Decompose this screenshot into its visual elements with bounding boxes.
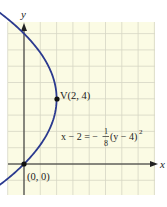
y-axis-label: y bbox=[20, 8, 26, 20]
grid-background bbox=[8, 22, 155, 195]
vertex-point bbox=[54, 96, 59, 101]
equation-frac-denominator: 8 bbox=[104, 139, 108, 148]
parabola-figure: x y V(2, 4) (0, 0) x − 2 = − 1 8 (y − 4)… bbox=[0, 0, 167, 207]
origin-point bbox=[21, 161, 26, 166]
x-axis-label: x bbox=[159, 158, 165, 170]
equation-rhs: (y − 4) bbox=[110, 131, 137, 143]
vertex-label: V(2, 4) bbox=[60, 90, 91, 102]
equation-frac-numerator: 1 bbox=[104, 127, 108, 136]
equation-exponent: 2 bbox=[139, 128, 143, 136]
equation-lhs: x − 2 = − bbox=[61, 131, 98, 142]
origin-label: (0, 0) bbox=[27, 171, 50, 183]
